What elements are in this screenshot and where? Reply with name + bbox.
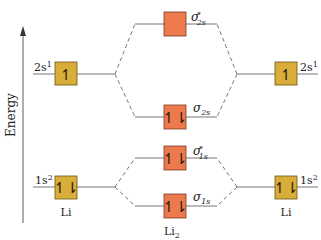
- left-li-2s-level: 2s1 ↿: [33, 60, 115, 85]
- correlation-lines-2s: [115, 24, 237, 117]
- left-2s-label: 2s1: [34, 60, 52, 74]
- left-atom-label: Li: [61, 206, 72, 219]
- mo-diagram: Energy 2s1 ↿ 1s2 ↿⇂ Li ↿ 2s1 ↿⇂ 1s2: [0, 0, 321, 240]
- sigma-star-2s-box: [164, 12, 186, 36]
- sigma-2s-electrons: ↿⇂: [162, 109, 187, 127]
- left-li-1s-level: 1s2 ↿⇂ Li: [33, 173, 115, 219]
- right-li-1s-level: ↿⇂ 1s2 Li: [237, 173, 318, 219]
- axis-arrow-icon: [20, 26, 26, 36]
- left-1s-electrons: ↿⇂: [53, 179, 78, 197]
- right-2s-electrons: ↿: [280, 66, 293, 84]
- sigma-1s-electrons: ↿⇂: [162, 198, 187, 216]
- sigma-2s-label: σ2s: [193, 101, 210, 117]
- mo-sigma-2s: ↿⇂ σ2s: [135, 101, 217, 129]
- right-li-2s-level: ↿ 2s1: [237, 60, 318, 85]
- mo-sigma-1s: ↿⇂ σ1s: [135, 190, 217, 218]
- molecule-label: Li2: [164, 225, 180, 240]
- right-1s-label: 1s2: [300, 173, 318, 187]
- energy-axis: Energy: [4, 26, 26, 223]
- left-1s-label: 1s2: [35, 173, 53, 187]
- mo-sigma-star-2s: σ*2s: [135, 10, 217, 36]
- mo-sigma-star-1s: ↿⇂ σ*1s: [135, 144, 217, 170]
- right-atom-label: Li: [281, 206, 292, 219]
- energy-axis-label: Energy: [4, 93, 18, 137]
- right-2s-label: 2s1: [300, 60, 318, 74]
- right-1s-electrons: ↿⇂: [273, 179, 298, 197]
- left-2s-electrons: ↿: [60, 66, 73, 84]
- sigma-1s-label: σ1s: [193, 190, 210, 206]
- sigma-star-1s-electrons: ↿⇂: [162, 150, 187, 168]
